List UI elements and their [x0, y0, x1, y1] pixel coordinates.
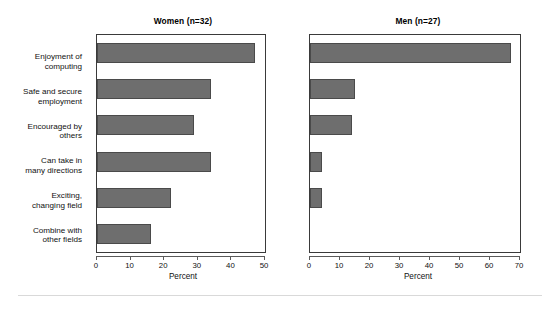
category-label-line: computing	[0, 62, 82, 72]
x-axis-tick	[369, 256, 370, 260]
x-axis-line	[309, 256, 519, 257]
x-axis-title-men: Percent	[288, 272, 548, 281]
bar	[97, 188, 171, 208]
x-axis-tick	[230, 256, 231, 260]
category-label: Safe and secureemployment	[0, 87, 82, 106]
bar	[97, 152, 211, 172]
panel-title-women: Women (n=32)	[88, 16, 278, 26]
panel-men: Men (n=27) Percent 010203040506070	[288, 0, 548, 310]
x-axis-tick	[130, 256, 131, 260]
category-label-line: Safe and secure	[0, 87, 82, 97]
category-label-line: many directions	[0, 166, 82, 176]
figure-bar-chart-panels: Enjoyment ofcomputingSafe and secureempl…	[0, 0, 560, 310]
x-axis-tick	[519, 256, 520, 260]
x-axis-tick-label: 60	[485, 261, 494, 270]
bar	[310, 79, 355, 99]
bar	[97, 43, 255, 63]
bar	[97, 224, 151, 244]
x-axis-tick	[429, 256, 430, 260]
category-label-line: Enjoyment of	[0, 52, 82, 62]
category-label-line: Exciting,	[0, 191, 82, 201]
x-axis-title-women: Percent	[88, 272, 278, 281]
bar	[310, 43, 511, 63]
bar	[97, 115, 194, 135]
x-axis-tick-label: 40	[226, 261, 235, 270]
x-axis-tick-label: 0	[94, 261, 98, 270]
x-axis-tick-label: 10	[125, 261, 134, 270]
category-label-line: changing field	[0, 201, 82, 211]
x-axis-tick	[264, 256, 265, 260]
x-axis-tick-label: 10	[335, 261, 344, 270]
x-axis-tick-label: 30	[192, 261, 201, 270]
x-axis-tick-label: 50	[260, 261, 269, 270]
x-axis-tick-label: 50	[455, 261, 464, 270]
category-label: Enjoyment ofcomputing	[0, 52, 82, 71]
bar	[310, 115, 352, 135]
category-label-line: Can take in	[0, 156, 82, 166]
x-axis-tick	[163, 256, 164, 260]
category-label-line: employment	[0, 97, 82, 107]
bar	[310, 152, 322, 172]
plot-area-men	[309, 34, 521, 253]
x-axis-tick-label: 40	[425, 261, 434, 270]
plot-area-women	[96, 34, 266, 253]
x-axis-tick	[399, 256, 400, 260]
x-axis-tick	[96, 256, 97, 260]
x-axis-tick-label: 20	[365, 261, 374, 270]
x-axis-tick	[489, 256, 490, 260]
category-label-line: Combine with	[0, 226, 82, 236]
category-label: Exciting,changing field	[0, 191, 82, 210]
bar	[310, 188, 322, 208]
x-axis-tick-label: 70	[515, 261, 524, 270]
x-axis-tick	[459, 256, 460, 260]
x-axis-tick-label: 30	[395, 261, 404, 270]
category-label-line: Encouraged by	[0, 122, 82, 132]
footer-divider	[18, 295, 542, 296]
category-label-column: Enjoyment ofcomputingSafe and secureempl…	[0, 45, 88, 253]
x-axis-tick	[339, 256, 340, 260]
category-label-line: other fields	[0, 235, 82, 245]
x-axis-line	[96, 256, 264, 257]
x-axis-tick-label: 20	[159, 261, 168, 270]
panel-women: Women (n=32) Percent 01020304050	[88, 0, 278, 310]
bar	[97, 79, 211, 99]
category-label-line: others	[0, 131, 82, 141]
x-axis-tick-label: 0	[307, 261, 311, 270]
x-axis-tick	[197, 256, 198, 260]
category-label: Encouraged byothers	[0, 122, 82, 141]
x-axis-tick	[309, 256, 310, 260]
category-label: Combine withother fields	[0, 226, 82, 245]
panel-title-men: Men (n=27)	[288, 16, 548, 26]
category-label: Can take inmany directions	[0, 156, 82, 175]
